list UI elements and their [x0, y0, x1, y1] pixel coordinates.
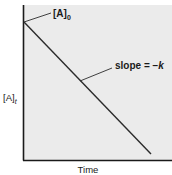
slope-label: slope = −k [115, 60, 164, 71]
x-axis-label: Time [78, 164, 99, 175]
plot-area [23, 5, 172, 160]
y-axis-label: [A]t [3, 92, 18, 105]
zero-order-kinetics-chart: [A]0 slope = −k [A]t Time [0, 0, 172, 175]
